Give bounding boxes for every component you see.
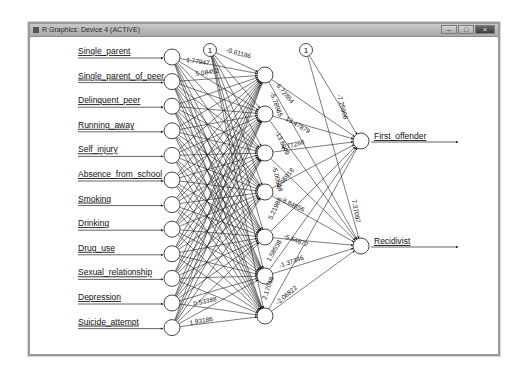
hidden-node xyxy=(257,67,273,83)
bias-label: 1 xyxy=(208,46,213,55)
output-label: First_offender xyxy=(374,131,426,141)
r-graphics-window: R Graphics: Device 4 (ACTIVE) – □ × Sing… xyxy=(28,22,500,356)
weight-label: -2.06822 xyxy=(274,284,298,306)
minimize-button[interactable]: – xyxy=(441,25,457,34)
input-label: Delinquent_peer xyxy=(78,95,141,105)
weight-label: 1.93186 xyxy=(189,315,214,326)
neural-network-plot: Single_parentSingle_parent_of_peerDelinq… xyxy=(30,36,498,354)
close-button[interactable]: × xyxy=(475,25,495,34)
weight-label: -0.61186 xyxy=(226,46,253,59)
hidden-node xyxy=(257,229,273,245)
input-label: Suicide_attempt xyxy=(78,317,140,327)
input-label: Single_parent xyxy=(78,46,131,56)
input-label: Single_parent_of_peer xyxy=(78,71,164,81)
input-node xyxy=(164,74,180,90)
weight-label: 13.47879 xyxy=(285,115,312,135)
input-label: Sexual_relationship xyxy=(78,267,152,277)
weight-label: 5.21988 xyxy=(267,196,283,221)
weight-label: 8.84856 xyxy=(282,197,307,213)
weight-label: -7.25906 xyxy=(336,93,350,120)
weight-label: 7.37097 xyxy=(351,199,362,224)
input-label: Absence_from_school xyxy=(78,169,162,179)
input-node xyxy=(164,295,180,311)
window-controls: – □ × xyxy=(441,25,495,34)
input-node xyxy=(164,98,180,114)
bias-label: 1 xyxy=(304,46,309,55)
hidden-node xyxy=(257,145,273,161)
weight-label: 0.53388 xyxy=(193,295,218,307)
input-node xyxy=(164,270,180,286)
input-node xyxy=(164,172,180,188)
input-node xyxy=(164,147,180,163)
input-node xyxy=(164,246,180,262)
hidden-node xyxy=(257,106,273,122)
output-node xyxy=(353,238,369,254)
input-node xyxy=(164,320,180,336)
input-node xyxy=(164,123,180,139)
input-node xyxy=(164,197,180,213)
output-node xyxy=(353,133,369,149)
input-node xyxy=(164,221,180,237)
r-app-icon xyxy=(33,27,39,33)
weight-label: -1.37346 xyxy=(278,253,305,268)
input-label: Depression xyxy=(78,292,121,302)
hidden-node xyxy=(257,308,273,324)
weight-label: 1.77947 xyxy=(186,56,211,66)
maximize-button[interactable]: □ xyxy=(458,25,474,34)
hidden-node xyxy=(257,184,273,200)
input-label: Drug_use xyxy=(78,243,115,253)
input-label: Smoking xyxy=(78,194,111,204)
minimize-icon: – xyxy=(442,25,456,34)
output-label: Recidivist xyxy=(374,236,411,246)
input-label: Running_away xyxy=(78,120,135,130)
window-title: R Graphics: Device 4 (ACTIVE) xyxy=(42,25,140,35)
input-node xyxy=(164,49,180,65)
input-label: Self_injury xyxy=(78,144,118,154)
maximize-icon: □ xyxy=(459,25,473,34)
input-label: Drinking xyxy=(78,218,109,228)
close-icon: × xyxy=(476,25,494,34)
